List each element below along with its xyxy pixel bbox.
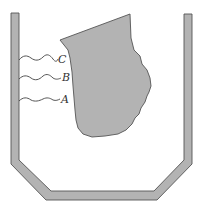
label-a: A (60, 93, 69, 106)
label-b: B (61, 71, 70, 84)
wave-line-a (19, 98, 60, 101)
solid-lump (60, 14, 151, 137)
label-c: C (58, 53, 67, 66)
wave-line-c (19, 55, 58, 61)
wave-line-b (19, 75, 61, 80)
diagram-canvas: C B A (0, 0, 206, 207)
